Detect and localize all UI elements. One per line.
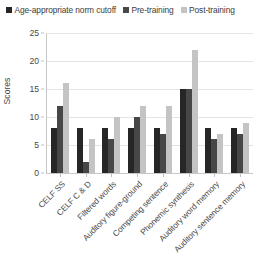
x-axis-tick-label: CELF SS — [0, 179, 67, 266]
bar-chart: Age-appropriate norm cutoff Pre-training… — [0, 0, 267, 266]
legend-label-cutoff: Age-appropriate norm cutoff — [15, 6, 116, 14]
bar — [140, 106, 146, 173]
x-axis-tick-mark — [189, 174, 190, 177]
bar — [243, 123, 249, 173]
bar-group — [77, 33, 95, 173]
y-axis-tick-label: 25 — [29, 28, 39, 38]
x-axis-tick-mark — [137, 174, 138, 177]
legend-label-pre-training: Pre-training — [131, 6, 173, 14]
bar-group — [102, 33, 120, 173]
bar-group — [205, 33, 223, 173]
bar — [192, 50, 198, 173]
bar-group — [128, 33, 146, 173]
chart-legend: Age-appropriate norm cutoff Pre-training… — [6, 6, 264, 14]
x-axis-tick-mark — [163, 174, 164, 177]
bar — [114, 117, 120, 173]
y-axis-tick-label: 10 — [29, 112, 39, 122]
square-marker-icon — [181, 7, 187, 13]
legend-label-post-training: Post-training — [189, 6, 235, 14]
bar — [217, 134, 223, 173]
square-marker-icon — [6, 7, 12, 13]
bars-layer — [47, 33, 252, 173]
bar-group — [154, 33, 172, 173]
legend-item-cutoff: Age-appropriate norm cutoff — [6, 6, 116, 14]
y-axis-tick-label: 20 — [29, 56, 39, 66]
bar — [63, 83, 69, 173]
bar — [166, 106, 172, 173]
bar-group — [51, 33, 69, 173]
y-axis-tick-mark — [41, 145, 44, 146]
y-axis-tick-label: 15 — [29, 84, 39, 94]
x-axis: CELF SSCELF C & DFiltered wordsAuditory … — [0, 174, 267, 266]
legend-item-post-training: Post-training — [181, 6, 235, 14]
legend-item-pre-training: Pre-training — [123, 6, 174, 14]
x-axis-tick-mark — [86, 174, 87, 177]
y-axis-tick-label: 5 — [34, 140, 39, 150]
square-marker-icon — [123, 7, 129, 13]
bar-group — [231, 33, 249, 173]
x-axis-tick-mark — [111, 174, 112, 177]
y-axis-tick-mark — [41, 61, 44, 62]
x-axis-tick-mark — [240, 174, 241, 177]
y-axis-tick-mark — [41, 89, 44, 90]
y-axis: 0510152025 — [0, 33, 44, 173]
bar — [89, 139, 95, 173]
y-axis-tick-mark — [41, 117, 44, 118]
bar-group — [180, 33, 198, 173]
y-axis-tick-mark — [41, 33, 44, 34]
x-axis-tick-mark — [214, 174, 215, 177]
x-axis-tick-mark — [60, 174, 61, 177]
